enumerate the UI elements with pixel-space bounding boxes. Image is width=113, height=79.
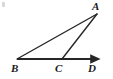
geometry-figure: A B C D (0, 0, 113, 79)
vertex-label-b: B (11, 63, 18, 74)
vertex-label-d: D (88, 63, 96, 74)
segment-CA (62, 14, 97, 59)
vertex-label-a: A (92, 1, 99, 12)
vertex-label-c: C (55, 63, 62, 74)
segment-BA (17, 14, 97, 59)
scan-artifact (2, 2, 5, 7)
